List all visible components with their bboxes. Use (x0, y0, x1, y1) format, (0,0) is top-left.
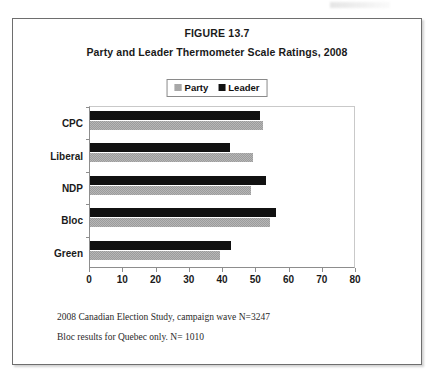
x-axis-tick-label: 80 (349, 274, 360, 285)
x-axis-tick-label: 50 (250, 274, 261, 285)
x-axis-tick (355, 268, 356, 272)
plot-area: CPCLiberalNDPBlocGreen (89, 106, 355, 268)
bar-leader (90, 241, 231, 250)
legend-label-party: Party (185, 82, 209, 93)
x-axis-tick (156, 268, 157, 272)
chart-legend: Party Leader (167, 79, 268, 97)
x-axis-tick-label: 40 (216, 274, 227, 285)
figure-title: Party and Leader Thermometer Scale Ratin… (13, 46, 421, 58)
scan-artifact (330, 2, 390, 8)
x-axis: 01020304050607080 (89, 268, 354, 290)
bar-leader (90, 208, 276, 217)
y-axis-label: Green (54, 247, 83, 258)
y-axis-label: Bloc (61, 215, 83, 226)
bar-leader (90, 111, 260, 120)
legend-label-leader: Leader (228, 82, 259, 93)
bar-party (90, 121, 263, 130)
x-axis-tick (255, 268, 256, 272)
x-axis-tick (289, 268, 290, 272)
x-axis-tick-label: 0 (86, 274, 92, 285)
legend-swatch-leader-icon (218, 84, 225, 91)
legend-swatch-party-icon (175, 84, 182, 91)
x-axis-tick (122, 268, 123, 272)
y-axis-tick (86, 107, 90, 108)
y-axis-label: Liberal (50, 150, 83, 161)
bar-party (90, 186, 251, 195)
x-axis-tick-label: 30 (183, 274, 194, 285)
x-axis-tick-label: 20 (150, 274, 161, 285)
y-axis-tick (86, 172, 90, 173)
legend-item-leader[interactable]: Leader (218, 82, 259, 93)
x-axis-tick (222, 268, 223, 272)
bar-party (90, 218, 270, 227)
figure-frame: FIGURE 13.7 Party and Leader Thermometer… (12, 18, 422, 365)
bar-group: Green (90, 237, 354, 269)
y-axis-tick (86, 237, 90, 238)
x-axis-tick (189, 268, 190, 272)
bar-group: CPC (90, 107, 354, 139)
bar-party (90, 153, 253, 162)
bar-group: Liberal (90, 139, 354, 171)
x-axis-tick-label: 10 (117, 274, 128, 285)
footnote-bloc-note: Bloc results for Quebec only. N= 1010 (57, 332, 204, 342)
x-axis-tick-label: 60 (283, 274, 294, 285)
x-axis-tick (89, 268, 90, 272)
x-axis-tick (322, 268, 323, 272)
x-axis-tick-label: 70 (316, 274, 327, 285)
bar-leader (90, 143, 230, 152)
y-axis-tick (86, 139, 90, 140)
y-axis-label: NDP (62, 182, 83, 193)
legend-item-party[interactable]: Party (175, 82, 209, 93)
y-axis-label: CPC (62, 118, 83, 129)
bar-party (90, 251, 220, 260)
bar-leader (90, 176, 266, 185)
footnote-source: 2008 Canadian Election Study, campaign w… (57, 312, 270, 322)
bar-group: NDP (90, 172, 354, 204)
y-axis-tick (86, 204, 90, 205)
bar-group: Bloc (90, 204, 354, 236)
figure-number: FIGURE 13.7 (13, 27, 421, 39)
